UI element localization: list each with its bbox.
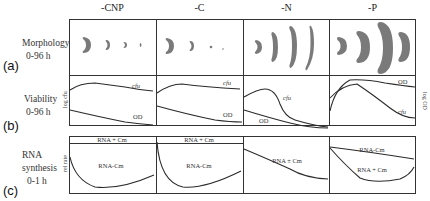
morphology-cells [83, 22, 410, 74]
figure-graphics: cfu OD cfu OD cfu OD OD cfu RNA + Cm RNA… [0, 0, 430, 201]
svg-text:RNA-Cm: RNA-Cm [98, 162, 123, 169]
svg-text:cfu: cfu [223, 79, 232, 86]
svg-text:RNA + Cm: RNA + Cm [184, 136, 214, 143]
viability-curves [70, 80, 415, 128]
svg-text:OD: OD [133, 113, 143, 120]
svg-text:RNA-Cm: RNA-Cm [359, 146, 384, 153]
svg-text:OD: OD [223, 111, 233, 118]
rna-curve-labels: RNA + Cm RNA + Cm RNA-Cm RNA-Cm RNA ± Cm… [97, 136, 387, 173]
svg-text:RNA + Cm: RNA + Cm [97, 136, 127, 143]
svg-text:RNA + Cm: RNA + Cm [357, 166, 387, 173]
svg-text:OD: OD [398, 78, 408, 85]
svg-text:RNA-Cm: RNA-Cm [186, 162, 211, 169]
svg-text:cfu: cfu [398, 108, 407, 115]
svg-text:RNA ± Cm: RNA ± Cm [272, 157, 302, 164]
svg-text:cfu: cfu [132, 82, 141, 89]
svg-text:OD: OD [259, 117, 269, 124]
svg-text:cfu: cfu [283, 94, 292, 101]
